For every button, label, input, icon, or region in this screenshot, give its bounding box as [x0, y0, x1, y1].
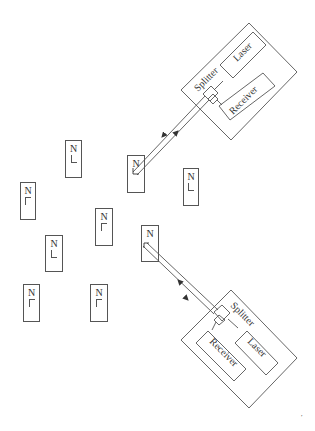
terminal-bottom-splitter-box [214, 305, 230, 321]
diagram-canvas: Laser Receiver Splitter [0, 0, 315, 431]
arrow-toward-node-bottom [178, 280, 185, 287]
node-h-label: N [184, 171, 198, 182]
node-d-label: N [46, 238, 62, 249]
node-g-label: N [128, 158, 144, 169]
optical-network-diagram: Laser Receiver Splitter [0, 0, 315, 431]
node-e-corner-icon [96, 299, 102, 307]
node-d: N [45, 235, 63, 272]
arrow-toward-terminal-bottom [180, 292, 188, 300]
terminal-top-receiver-wire [217, 100, 222, 105]
arrow-toward-node [162, 128, 170, 137]
node-i: N [141, 225, 159, 262]
node-b-corner-icon [25, 197, 31, 205]
terminal-top-laser-wire [214, 81, 223, 90]
terminal-bottom-splitter-label: Splitter [229, 300, 258, 329]
node-a-corner-icon [71, 155, 77, 163]
corner-mark: ′ [301, 413, 303, 421]
node-g: N [127, 155, 145, 193]
terminal-top-splitter-label: Splitter [192, 64, 221, 93]
terminal-bottom-receiver-label: Receiver [208, 336, 241, 369]
node-c-label: N [96, 211, 112, 222]
node-i-label: N [142, 228, 158, 239]
link-top-line-b [137, 100, 209, 175]
terminal-bottom-laser-label: Laser [246, 336, 270, 360]
terminal-top: Laser Receiver Splitter [181, 23, 297, 140]
node-d-corner-icon [51, 250, 57, 258]
arrow-toward-terminal [168, 131, 178, 141]
terminal-bottom-receiver-wire [212, 322, 216, 330]
node-b: N [20, 182, 36, 220]
node-a-label: N [66, 143, 81, 154]
node-e: N [90, 284, 108, 322]
node-f-corner-icon [29, 299, 35, 307]
node-h: N [183, 168, 199, 206]
node-c-corner-icon [101, 223, 107, 231]
node-f-label: N [24, 287, 39, 298]
node-h-corner-icon [188, 183, 194, 191]
terminal-bottom-laser-wire [228, 319, 238, 328]
terminal-bottom: Receiver Laser Splitter [181, 290, 297, 408]
node-c: N [95, 208, 113, 246]
node-a: N [65, 140, 82, 178]
node-b-label: N [21, 185, 35, 196]
node-f: N [23, 284, 40, 322]
node-e-label: N [91, 287, 107, 298]
terminal-top-splitter-inner [208, 94, 218, 104]
